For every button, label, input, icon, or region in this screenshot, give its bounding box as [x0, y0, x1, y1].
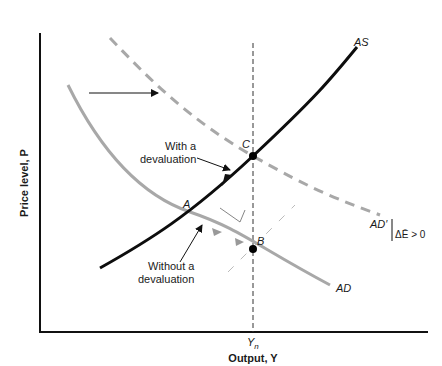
without-devaluation-line1: Without a: [148, 260, 195, 272]
x-axis-title: Output, Y: [228, 352, 278, 364]
point-a-label: A: [182, 198, 190, 210]
as-ad-devaluation-diagram: AS AD AD′ ΔĒ > 0 A B C With a devaluatio…: [0, 0, 442, 366]
point-b: [249, 245, 257, 253]
y-axis-title: Price level, P: [18, 149, 30, 217]
ad-direction-arrow-icon: [212, 228, 222, 236]
ad-label: AD: [335, 282, 351, 294]
without-devaluation-line2: devaluation: [138, 273, 194, 285]
as-direction-arrow-icon: [222, 174, 232, 186]
yn-label: Yn: [247, 336, 259, 351]
ad-prime-label: AD′: [369, 218, 388, 230]
as-label: AS: [353, 36, 369, 48]
ad-direction-arrow-icon-2: [235, 238, 244, 246]
with-devaluation-pointer: [197, 158, 230, 170]
ad-curve: [68, 85, 330, 285]
as-curve: [100, 47, 357, 268]
with-devaluation-line1: With a: [165, 140, 197, 152]
ad-prime-curve: [110, 38, 380, 215]
point-b-label: B: [257, 235, 264, 247]
sketch-mark: [220, 208, 245, 222]
point-c-label: C: [242, 138, 250, 150]
point-c: [249, 152, 257, 160]
with-devaluation-line2: devaluation: [140, 153, 196, 165]
diagram-svg: AS AD AD′ ΔĒ > 0 A B C With a devaluatio…: [0, 0, 442, 366]
ad-prime-condition: ΔĒ > 0: [395, 229, 426, 240]
without-devaluation-pointer: [180, 225, 202, 262]
